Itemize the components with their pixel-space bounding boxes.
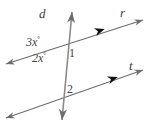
label-angle-3x-degrees: 3x° [26,36,40,48]
label-angle-3x-unit: ° [37,35,40,43]
geometry-figure: d r t 3x° 2x° 1 2 [0,0,147,128]
label-angle-2x-degrees: 2x° [32,52,46,64]
label-line-d: d [39,7,46,20]
transversal-line-d [62,12,72,120]
label-angle-1: 1 [69,47,75,59]
label-angle-2x-value: 2x [32,51,43,65]
label-angle-3x-value: 3x [26,35,37,49]
label-angle-2x-unit: ° [43,51,46,59]
parallel-line-t [6,70,143,118]
label-line-r: r [120,6,125,19]
label-angle-2: 2 [67,83,73,95]
label-line-t: t [129,59,133,72]
